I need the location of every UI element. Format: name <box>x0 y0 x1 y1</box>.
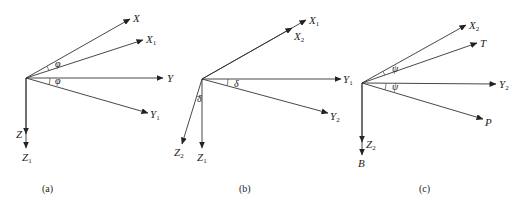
axis-x1-arrow <box>26 40 143 78</box>
coordinate-frames-diagram: XX1YY1ZZ1φφ(a)X1X2Y1Y2Z1Z2δδ(b)X2TY2PZ2B… <box>0 0 521 205</box>
axis-label-x2: X2 <box>293 30 305 44</box>
axis-label-z: Z <box>16 128 23 140</box>
axis-x2-arrow <box>362 25 466 83</box>
angle-arc <box>49 78 50 85</box>
axis-label-x2: X2 <box>468 19 480 33</box>
axis-label-y1: Y1 <box>343 73 353 87</box>
axis-label-b: B <box>358 157 365 169</box>
axis-p-arrow <box>362 83 483 119</box>
axis-label-y2: Y2 <box>330 110 340 124</box>
figure-canvas: XX1YY1ZZ1φφ(a)X1X2Y1Y2Z1Z2δδ(b)X2TY2PZ2B… <box>0 0 521 205</box>
axis-label-y: Y <box>167 72 175 84</box>
axis-x2-arrow <box>202 28 292 79</box>
axis-y1-arrow <box>26 78 148 113</box>
angle-arc <box>385 83 386 90</box>
angle-symbol: ψ <box>392 81 399 92</box>
panel-caption-c: (c) <box>419 183 430 195</box>
panel-a: XX1YY1ZZ1φφ(a) <box>16 12 175 195</box>
axis-t-arrow <box>362 43 477 83</box>
axis-y2-arrow <box>362 83 496 84</box>
panel-caption-a: (a) <box>42 183 53 195</box>
panel-caption-b: (b) <box>239 183 251 195</box>
axis-label-p: P <box>484 116 492 128</box>
axis-label-z2: Z2 <box>174 146 184 160</box>
angle-symbol: ψ <box>392 63 399 74</box>
axis-z2-arrow <box>182 79 202 144</box>
angle-arc <box>383 71 385 75</box>
panel-b: X1X2Y1Y2Z1Z2δδ(b) <box>174 14 353 195</box>
axis-x-arrow <box>26 19 130 78</box>
axis-label-x1: X1 <box>145 33 157 47</box>
axis-label-z1: Z1 <box>22 151 32 165</box>
axis-label-z1: Z1 <box>197 151 207 165</box>
axis-label-z2: Z2 <box>366 138 376 152</box>
axis-label-y2: Y2 <box>499 78 509 92</box>
angle-arc <box>227 79 228 86</box>
angle-symbol: φ <box>55 58 61 69</box>
axis-label-x1: X1 <box>308 14 320 28</box>
axis-label-x: X <box>132 12 141 24</box>
angle-arc <box>47 66 49 70</box>
axis-label-y1: Y1 <box>150 108 160 122</box>
angle-symbol: δ <box>197 93 202 104</box>
angle-symbol: φ <box>55 75 61 86</box>
axis-y2-arrow <box>202 79 328 113</box>
panel-c: X2TY2PZ2Bψψ(c) <box>358 19 509 195</box>
axis-label-t: T <box>480 37 487 49</box>
angle-symbol: δ <box>234 78 239 89</box>
